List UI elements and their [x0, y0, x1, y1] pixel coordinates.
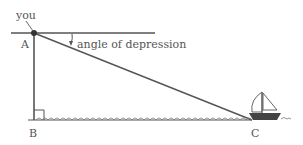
observer-dot	[31, 30, 37, 36]
arrowhead-icon	[69, 41, 73, 46]
label-point-a: A	[20, 38, 30, 51]
angle-of-depression-diagram: you A angle of depression B C	[0, 0, 303, 145]
you-leader-line	[26, 21, 33, 31]
label-you: you	[15, 9, 36, 22]
label-point-b: B	[29, 127, 37, 140]
right-angle-marker	[34, 110, 44, 120]
label-point-c: C	[251, 127, 259, 140]
sailboat-icon	[249, 92, 291, 120]
label-angle-of-depression: angle of depression	[77, 38, 186, 51]
